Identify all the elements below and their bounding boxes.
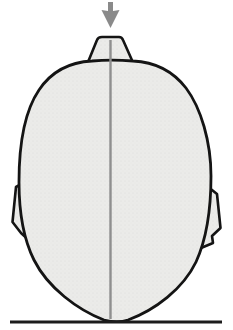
head-outline — [19, 60, 211, 322]
head-top-view-figure — [0, 0, 233, 330]
head-top-view-canvas — [0, 0, 233, 330]
